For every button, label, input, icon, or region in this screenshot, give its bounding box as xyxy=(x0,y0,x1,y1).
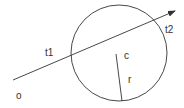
ray-sphere-diagram: t1 t2 c r o xyxy=(0,0,184,108)
label-radius: r xyxy=(128,74,132,85)
sphere-circle xyxy=(71,5,167,101)
label-center: c xyxy=(124,50,129,61)
label-origin: o xyxy=(16,90,22,101)
ray-line xyxy=(13,11,175,80)
label-t2: t2 xyxy=(165,24,174,35)
label-t1: t1 xyxy=(45,47,54,58)
radius-line xyxy=(116,54,122,101)
diagram-svg: t1 t2 c r o xyxy=(0,0,184,108)
